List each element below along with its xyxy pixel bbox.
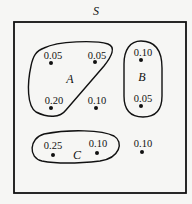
point-value: 0.10 <box>88 95 106 106</box>
point-b2: 0.05 <box>134 93 152 108</box>
point-dot <box>139 104 143 108</box>
point-dot <box>51 153 55 157</box>
point-a3: 0.20 <box>45 95 63 110</box>
point-c2: 0.10 <box>89 138 107 155</box>
venn-diagram: S A B C 0.05 0.05 0.20 0.10 0.10 0.05 0.… <box>0 0 192 204</box>
universe-label: S <box>93 4 99 18</box>
point-dot <box>95 151 99 155</box>
point-dot <box>93 60 97 64</box>
point-dot <box>139 58 143 62</box>
point-value: 0.05 <box>44 50 62 61</box>
point-free2: 0.10 <box>134 138 152 154</box>
point-dot <box>140 150 144 154</box>
point-dot <box>94 106 98 110</box>
point-value: 0.10 <box>134 138 152 149</box>
point-value: 0.05 <box>134 93 152 104</box>
point-b1: 0.10 <box>134 47 152 62</box>
point-value: 0.10 <box>89 138 107 149</box>
set-b-label: B <box>138 70 146 84</box>
point-value: 0.20 <box>45 95 63 106</box>
point-value: 0.25 <box>44 140 62 151</box>
set-c-label: C <box>73 148 82 162</box>
point-value: 0.10 <box>134 47 152 58</box>
point-free1: 0.10 <box>88 95 106 110</box>
point-a2: 0.05 <box>88 50 106 64</box>
point-dot <box>49 106 53 110</box>
point-dot <box>49 61 53 65</box>
point-c1: 0.25 <box>44 140 62 157</box>
point-value: 0.05 <box>88 50 106 61</box>
point-a1: 0.05 <box>44 50 62 65</box>
set-a-label: A <box>65 72 74 86</box>
